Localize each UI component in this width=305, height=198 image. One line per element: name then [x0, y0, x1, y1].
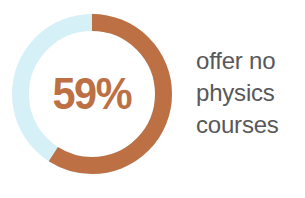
caption-line-1: offer no [196, 45, 304, 77]
caption-block: offer no physics courses [196, 45, 304, 141]
donut-chart-svg [11, 13, 173, 175]
percent-donut-infographic: 59% offer no physics courses [0, 0, 305, 198]
caption-line-2: physics [196, 77, 304, 109]
caption-line-3: courses [196, 109, 304, 141]
donut-chart: 59% [11, 13, 173, 175]
